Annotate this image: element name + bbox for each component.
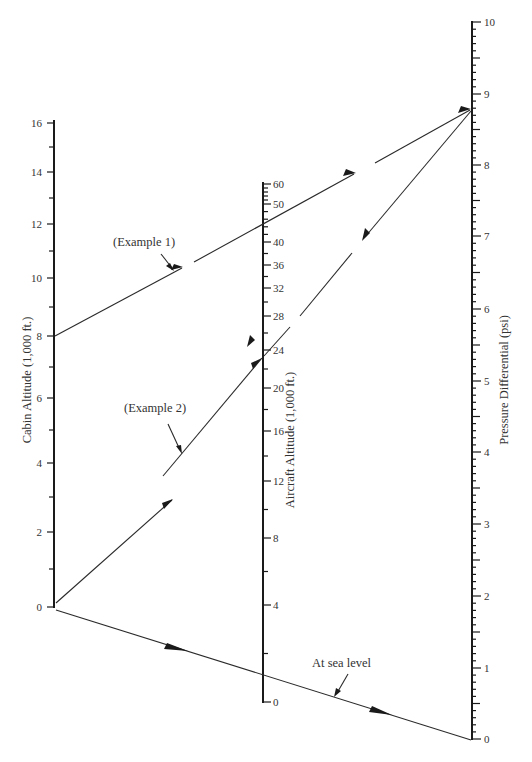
arrowhead-icon: [369, 706, 392, 715]
cabin-tick-label: 8: [37, 330, 43, 342]
pressure-tick-label: 3: [484, 518, 490, 530]
cabin-tick-label: 4: [37, 457, 43, 469]
pressure-tick-label: 7: [484, 230, 490, 242]
arrowhead-icon: [343, 169, 356, 176]
pressure-tick-label: 1: [484, 662, 490, 674]
arrowhead-icon: [164, 643, 188, 651]
arrowhead-icon: [162, 499, 173, 509]
arrowhead-icon: [334, 688, 341, 697]
aircraft-axis-title: Aircraft Altitude (1,000 ft.): [283, 372, 297, 508]
aircraft-tick-label: 28: [273, 310, 285, 322]
cabin-altitude-axis: 0246810121416: [31, 117, 54, 613]
aircraft-tick-label: 60: [273, 178, 285, 190]
aircraft-tick-label: 0: [273, 696, 279, 708]
aircraft-tick-label: 36: [273, 259, 285, 271]
pressure-tick-label: 8: [484, 159, 490, 171]
example-2-label: (Example 2): [124, 401, 186, 415]
arrowhead-icon: [176, 445, 182, 454]
pressure-tick-label: 2: [484, 590, 490, 602]
example-1-pointer: [161, 254, 174, 271]
pressure-tick-label: 5: [484, 375, 490, 387]
pressure-tick-label: 9: [484, 88, 490, 100]
pressure-tick-label: 10: [484, 16, 496, 28]
arrowhead-icon: [458, 106, 471, 113]
pressure-tick-label: 6: [484, 303, 490, 315]
arrowhead-icon: [247, 335, 255, 347]
cabin-tick-label: 12: [31, 218, 42, 230]
aircraft-tick-label: 50: [273, 198, 285, 210]
pressure-tick-label: 0: [484, 733, 490, 745]
cabin-tick-label: 16: [31, 117, 43, 129]
pressure-axis-title: Pressure Differential (psi): [497, 315, 511, 445]
cabin-tick-label: 14: [31, 166, 43, 178]
cabin-tick-label: 10: [31, 272, 43, 284]
example-2-line: [56, 358, 262, 603]
arrowhead-icon: [251, 358, 262, 369]
aircraft-tick-label: 8: [273, 532, 279, 544]
cabin-tick-label: 6: [37, 392, 43, 404]
aircraft-tick-label: 40: [273, 236, 285, 248]
cabin-tick-label: 2: [37, 526, 43, 538]
arrowhead-icon: [362, 228, 370, 241]
pressure-tick-label: 4: [484, 446, 490, 458]
cabin-tick-label: 0: [37, 601, 43, 613]
cabin-axis-title: Cabin Altitude (1,000 ft.): [20, 317, 34, 444]
example-1-label: (Example 1): [113, 235, 175, 249]
aircraft-altitude-axis: 04812162024283236405060: [263, 178, 285, 708]
pressure-differential-axis: 012345678910: [472, 16, 496, 745]
sea-level-label: At sea level: [312, 656, 372, 670]
sea-level-pointer: [334, 674, 348, 697]
aircraft-tick-label: 32: [273, 282, 284, 294]
aircraft-tick-label: 4: [273, 599, 279, 611]
nomogram-diagram: 0246810121416 04812162024283236405060 01…: [0, 0, 532, 762]
aircraft-tick-label: 24: [273, 344, 285, 356]
example-2-pointer: [168, 424, 182, 454]
